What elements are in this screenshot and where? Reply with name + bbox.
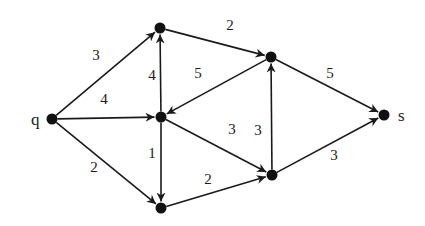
edge-weight-d-s: 5 <box>326 65 334 81</box>
edge-b-e <box>166 120 266 172</box>
edge-e-d <box>271 63 272 169</box>
edge-weight-q-c: 2 <box>90 159 98 175</box>
edge-a-d <box>165 29 264 55</box>
edge-e-s <box>277 118 378 172</box>
node-label-s: s <box>398 106 405 125</box>
flow-network-diagram: 342412532353 qs <box>0 0 425 226</box>
edge-weight-e-s: 3 <box>330 147 338 163</box>
edge-q-c <box>56 122 156 203</box>
node-label-q: q <box>31 110 40 129</box>
edge-weight-b-c: 1 <box>148 145 156 161</box>
node-q <box>47 114 58 125</box>
node-b <box>156 112 167 123</box>
node-labels: qs <box>31 106 405 129</box>
node-d <box>266 52 277 63</box>
edge-weight-a-d: 2 <box>226 17 234 33</box>
edge-weight-b-a: 4 <box>148 67 156 83</box>
edge-d-b <box>167 60 266 114</box>
node-e <box>267 170 278 181</box>
node-c <box>156 203 167 214</box>
edge-weight-q-a: 3 <box>92 47 100 63</box>
edge-weight-c-e: 2 <box>204 171 212 187</box>
edge-weight-d-b: 5 <box>194 65 202 81</box>
edge-weight-b-e: 3 <box>228 121 236 137</box>
node-a <box>155 23 166 34</box>
edge-b-a <box>160 34 161 111</box>
edge-weight-q-b: 4 <box>100 91 108 107</box>
edges <box>56 29 378 206</box>
edge-c-e <box>166 177 265 207</box>
node-s <box>379 110 390 121</box>
edge-q-b <box>57 117 154 119</box>
edge-weight-e-d: 3 <box>254 122 262 138</box>
